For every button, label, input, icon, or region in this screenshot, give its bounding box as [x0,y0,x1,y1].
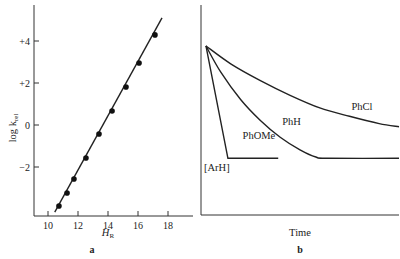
panel-a-log-krel-vs-hr: 1012141618+4+20−2 log krel HR a [7,5,193,255]
panel-a-x-tick-label: 10 [43,220,53,231]
panel-a-x-tick-label: 12 [73,220,83,231]
panel-b-series-phcl [206,46,399,127]
panel-a-data-point [136,60,142,66]
panel-a-x-tick-label: 16 [133,220,143,231]
panel-a-data-point [64,190,70,196]
panel-a-x-tick-label: 18 [163,220,173,231]
panel-b-y-annotation-arh: [ArH] [204,162,230,173]
panel-a-y-tick-label: +4 [19,36,30,47]
panel-a-data-point [83,155,89,161]
panel-b-label-phh: PhH [282,116,301,127]
panel-a-y-tick-label: 0 [25,120,30,131]
panel-a-data-point [109,108,115,114]
panel-b-label: b [297,244,303,255]
panel-a-data-point [56,203,62,209]
panel-a-y-tick-label: +2 [19,78,30,89]
panel-a-data-point [71,176,77,182]
panel-a-y-axis-label: log krel [7,114,20,143]
panel-b-arh-vs-time: PhOMePhHPhCl [ArH] Time b [201,5,399,255]
panel-b-label-phcl: PhCl [351,101,372,112]
panel-a-ticks: 1012141618+4+20−2 [19,36,173,232]
figure: 1012141618+4+20−2 log krel HR a PhOMePhH… [0,0,400,259]
panel-a-data-point [96,131,102,137]
panel-a-y-tick-label: −2 [19,162,30,173]
panel-b-x-axis-label: Time [289,227,311,238]
panel-a-label: a [90,244,95,255]
panel-a-data-point [123,84,129,90]
panel-a-fit-line [55,18,162,212]
panel-a-data-point [152,32,158,38]
panel-b-label-phome: PhOMe [243,130,276,141]
panel-a-regression-line [55,18,162,212]
